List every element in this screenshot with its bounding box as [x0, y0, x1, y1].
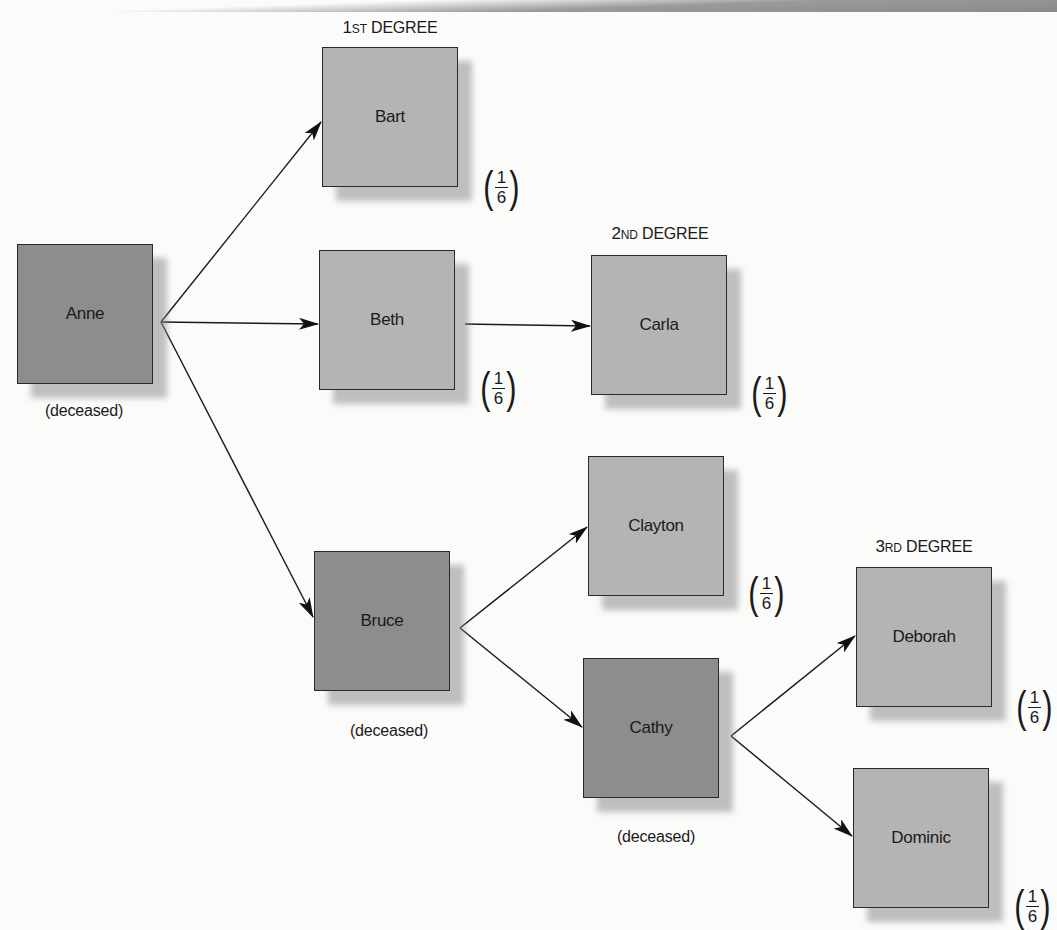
- right-paren-icon: ): [506, 365, 516, 411]
- degree-text: DEGREE: [642, 225, 708, 242]
- left-paren-icon: (: [1016, 684, 1026, 730]
- degree-suffix: ND: [621, 228, 638, 242]
- edge-anne-beth: [161, 322, 318, 324]
- node-carla: Carla: [591, 255, 727, 395]
- node-name: Beth: [370, 310, 404, 330]
- degree-suffix: ST: [352, 22, 367, 36]
- edge-cathy-deborah: [731, 636, 855, 736]
- left-paren-icon: (: [1014, 883, 1024, 929]
- node-clayton: Clayton: [588, 456, 724, 596]
- share-dominic: ( 16 ): [1012, 883, 1053, 929]
- left-paren-icon: (: [480, 365, 490, 411]
- share-numerator: 1: [763, 374, 776, 394]
- node-name: Clayton: [628, 516, 684, 536]
- share-denominator: 6: [762, 594, 771, 613]
- edge-cathy-dominic: [731, 736, 852, 836]
- left-paren-icon: (: [483, 164, 493, 210]
- share-denominator: 6: [494, 389, 503, 408]
- share-denominator: 6: [765, 394, 774, 413]
- right-paren-icon: ): [1042, 684, 1052, 730]
- node-name: Anne: [66, 304, 105, 324]
- share-numerator: 1: [1026, 887, 1039, 907]
- share-numerator: 1: [1028, 688, 1041, 708]
- status-cathy: (deceased): [617, 828, 695, 846]
- status-anne: (deceased): [45, 402, 123, 420]
- node-bruce: Bruce: [314, 551, 450, 691]
- share-numerator: 1: [492, 369, 505, 389]
- degree-label-2nd: 2ND DEGREE: [612, 224, 709, 244]
- node-name: Dominic: [891, 828, 950, 848]
- share-denominator: 6: [1028, 907, 1037, 926]
- degree-number: 2: [612, 224, 621, 243]
- node-cathy: Cathy: [583, 658, 719, 798]
- right-paren-icon: ): [509, 164, 519, 210]
- edge-bruce-clayton: [460, 527, 587, 628]
- node-beth: Beth: [319, 250, 455, 390]
- right-paren-icon: ): [1040, 883, 1050, 929]
- node-anne: Anne: [17, 244, 153, 384]
- node-name: Bart: [375, 107, 405, 127]
- right-paren-icon: ): [774, 570, 784, 616]
- edge-bruce-cathy: [460, 628, 582, 727]
- share-denominator: 6: [1030, 708, 1039, 727]
- node-bart: Bart: [322, 47, 458, 187]
- degree-number: 3: [876, 537, 885, 556]
- degree-text: DEGREE: [371, 19, 437, 36]
- edge-anne-bruce: [161, 322, 313, 617]
- degree-label-3rd: 3RD DEGREE: [876, 537, 973, 557]
- node-name: Bruce: [361, 611, 404, 631]
- left-paren-icon: (: [751, 370, 761, 416]
- left-paren-icon: (: [748, 570, 758, 616]
- share-deborah: ( 16 ): [1014, 684, 1055, 730]
- share-denominator: 6: [497, 188, 506, 207]
- degree-label-1st: 1ST DEGREE: [343, 18, 438, 38]
- node-name: Deborah: [892, 627, 955, 647]
- share-beth: ( 16 ): [478, 365, 519, 411]
- share-clayton: ( 16 ): [746, 570, 787, 616]
- status-bruce: (deceased): [350, 722, 428, 740]
- node-dominic: Dominic: [853, 768, 989, 908]
- node-name: Cathy: [630, 718, 673, 738]
- share-bart: ( 16 ): [481, 164, 522, 210]
- right-paren-icon: ): [777, 370, 787, 416]
- share-numerator: 1: [495, 168, 508, 188]
- edge-beth-carla: [465, 324, 590, 326]
- node-name: Carla: [639, 315, 678, 335]
- node-deborah: Deborah: [856, 567, 992, 707]
- share-carla: ( 16 ): [749, 370, 790, 416]
- edge-anne-bart: [161, 122, 321, 322]
- degree-text: DEGREE: [906, 538, 972, 555]
- degree-number: 1: [343, 18, 352, 37]
- degree-suffix: RD: [885, 541, 902, 555]
- share-numerator: 1: [760, 574, 773, 594]
